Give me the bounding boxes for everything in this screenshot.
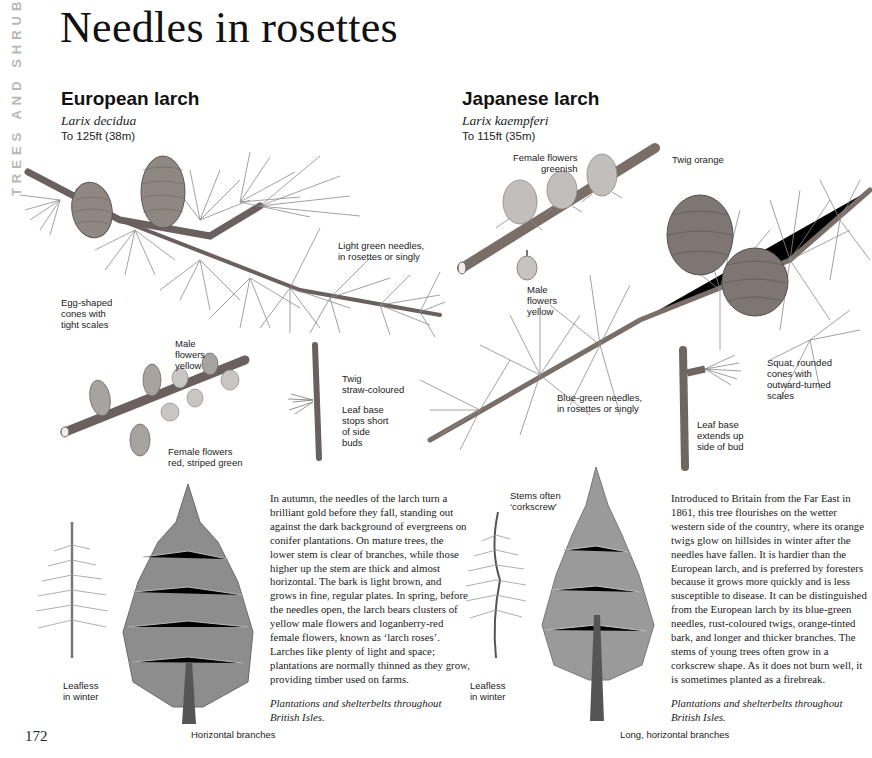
label-leaf-base-stops-short: Leaf base stops short of side buds — [342, 404, 388, 448]
european-larch-winter-tree-illustration — [30, 520, 115, 660]
label-egg-shaped-cones: Egg-shaped cones with tight scales — [61, 297, 112, 330]
label-squat-rounded-cones: Squat, rounded cones with outward-turned… — [767, 357, 832, 401]
label-leaf-base-extends-up: Leaf base extends up side of bud — [697, 419, 743, 452]
species-header-european-larch: European larch Larix decidua To 125ft (3… — [61, 88, 199, 142]
label-male-flowers-yellow: Male flowers yellow — [175, 338, 205, 371]
species-latin-name: Larix kaempferi — [462, 113, 599, 129]
european-larch-description: In autumn, the needles of the larch turn… — [270, 492, 470, 725]
european-larch-mature-tree-illustration — [118, 482, 258, 727]
label-horizontal-branches: Horizontal branches — [191, 729, 276, 740]
page-title: Needles in rosettes — [60, 2, 398, 53]
species-name: Japanese larch — [462, 88, 599, 110]
label-long-horizontal-branches: Long, horizontal branches — [620, 729, 729, 740]
japanese-larch-description: Introduced to Britain from the Far East … — [671, 492, 871, 725]
label-leafless-in-winter: Leafless in winter — [63, 680, 98, 702]
label-female-flowers-red: Female flowers red, striped green — [168, 446, 242, 468]
european-larch-twig-detail-illustration — [285, 340, 325, 460]
description-paragraph: Introduced to Britain from the Far East … — [671, 492, 871, 687]
habitat-range: Plantations and shelterbelts throughout … — [671, 697, 871, 725]
european-larch-flowering-twig-illustration — [55, 350, 255, 460]
habitat-range: Plantations and shelterbelts throughout … — [270, 697, 470, 725]
label-leafless-in-winter-japanese: Leafless in winter — [470, 680, 505, 702]
species-latin-name: Larix decidua — [61, 113, 199, 129]
species-header-japanese-larch: Japanese larch Larix kaempferi To 115ft … — [462, 88, 599, 142]
label-twig-orange: Twig orange — [672, 154, 724, 165]
japanese-larch-winter-tree-illustration — [462, 510, 532, 660]
description-paragraph: In autumn, the needles of the larch turn… — [270, 492, 470, 687]
japanese-larch-branch-illustration — [390, 170, 872, 460]
japanese-larch-mature-tree-illustration — [534, 465, 659, 725]
label-blue-green-needles: Blue-green needles, in rosettes or singl… — [557, 392, 642, 414]
page-number: 172 — [25, 728, 48, 745]
species-name: European larch — [61, 88, 199, 110]
